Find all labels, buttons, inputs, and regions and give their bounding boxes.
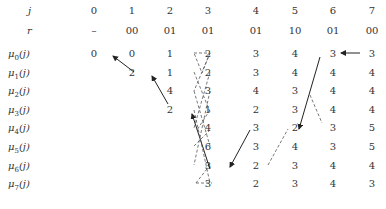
dashed-arrows xyxy=(194,53,322,183)
trellis-paths xyxy=(0,0,386,209)
solid-arrows xyxy=(113,53,360,169)
